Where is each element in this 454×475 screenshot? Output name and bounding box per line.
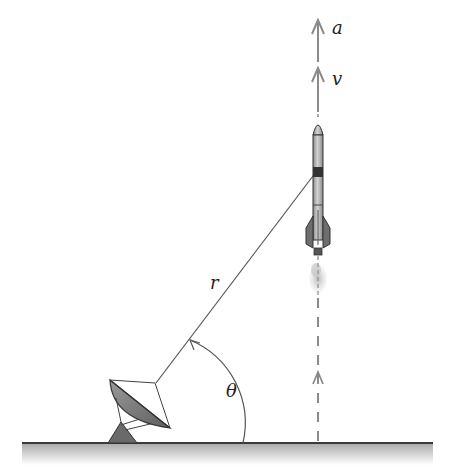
range-label: r [210,274,219,292]
acceleration-arrow [312,20,324,62]
radar-dish [108,380,170,443]
velocity-label: v [332,70,342,88]
velocity-arrow [312,68,324,112]
acceleration-label: a [332,19,343,37]
rocket [306,125,330,255]
trajectory-dashed-line [313,298,323,443]
diagram-canvas [0,0,454,475]
exhaust-plume [309,256,327,296]
ground [22,443,433,465]
angle-label: θ [226,382,237,400]
range-line [156,172,316,383]
